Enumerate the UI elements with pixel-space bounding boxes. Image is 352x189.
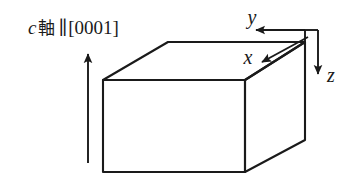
block-right-face: [245, 42, 305, 172]
figure-canvas: y x z: [0, 0, 352, 189]
z-axis-label: z: [326, 64, 335, 86]
y-axis-label: y: [246, 6, 257, 29]
y-axis-arrow: [256, 30, 305, 42]
crystal-orientation-figure: c軸∥[0001] y x z: [0, 0, 352, 189]
specimen-block: [103, 42, 305, 172]
x-axis-label: x: [243, 46, 253, 68]
x-axis-arrow: [262, 37, 308, 62]
block-front-face: [103, 80, 245, 172]
